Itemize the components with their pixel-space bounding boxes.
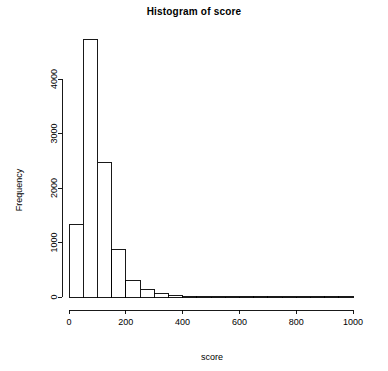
y-axis-title: Frequency xyxy=(14,168,24,211)
histogram-chart: 01000200030004000 02004006008001000 Freq… xyxy=(0,0,388,371)
x-tick-label: 1000 xyxy=(343,317,363,327)
y-tick-label: 4000 xyxy=(49,69,59,89)
histogram-bar xyxy=(140,289,154,297)
histogram-bar xyxy=(254,296,268,297)
histogram-bar xyxy=(97,162,111,297)
histogram-bar xyxy=(168,296,182,297)
histogram-bar xyxy=(239,296,253,297)
histogram-bar xyxy=(154,294,168,297)
y-tick-label: 0 xyxy=(49,294,59,299)
histogram-bar xyxy=(197,296,211,297)
histogram-bar xyxy=(183,296,197,297)
histogram-bar xyxy=(211,296,225,297)
x-axis-line xyxy=(69,310,353,314)
histogram-bar xyxy=(83,39,97,297)
histogram-screenshot: Histogram of score 01000200030004000 020… xyxy=(0,0,388,371)
x-tick-label: 400 xyxy=(175,317,190,327)
x-axis-title: score xyxy=(201,352,223,362)
histogram-bar xyxy=(339,296,353,297)
histogram-bar xyxy=(69,225,83,297)
y-tick-label: 1000 xyxy=(49,232,59,252)
histogram-bar xyxy=(310,296,324,297)
x-tick-label: 800 xyxy=(289,317,304,327)
x-tick-label: 600 xyxy=(232,317,247,327)
bars-group xyxy=(69,39,353,297)
x-tick-label: 0 xyxy=(66,317,71,327)
x-tick-label: 200 xyxy=(118,317,133,327)
histogram-bar xyxy=(112,249,126,297)
histogram-bar xyxy=(268,296,282,297)
histogram-bar xyxy=(282,296,296,297)
y-axis: 01000200030004000 xyxy=(49,69,62,300)
histogram-bar xyxy=(296,296,310,297)
histogram-bar xyxy=(225,296,239,297)
y-tick-label: 3000 xyxy=(49,123,59,143)
x-axis: 02004006008001000 xyxy=(66,310,363,327)
y-tick-label: 2000 xyxy=(49,178,59,198)
histogram-bar xyxy=(325,296,339,297)
histogram-bar xyxy=(126,281,140,297)
